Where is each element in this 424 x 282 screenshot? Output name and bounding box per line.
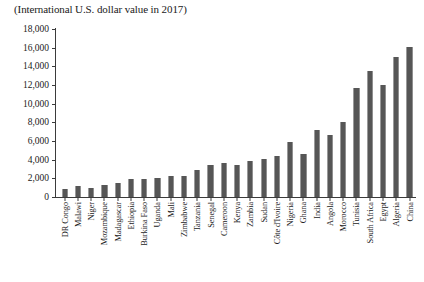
bar-slot	[164, 29, 177, 197]
bar-slot	[151, 29, 164, 197]
x-axis-tick-label: Niger	[87, 202, 96, 221]
x-axis-tick	[303, 197, 304, 201]
bar	[128, 179, 134, 197]
bar	[207, 165, 213, 197]
x-label-slot: Tunisia	[350, 202, 363, 280]
y-axis-tick	[52, 197, 56, 198]
bar-slot	[124, 29, 137, 197]
bar	[406, 47, 412, 197]
x-label-slot: Sudan	[257, 202, 270, 280]
bar	[75, 186, 81, 197]
bar	[62, 189, 68, 197]
x-axis-tick	[77, 197, 78, 201]
x-axis-tick-label: Egypt	[379, 202, 388, 222]
x-label-slot: Ethiopia	[124, 202, 137, 280]
y-axis-tick-label: 16,000	[23, 43, 49, 53]
bar	[101, 185, 107, 197]
bar-slot	[138, 29, 151, 197]
x-label-slot: Niger	[85, 202, 98, 280]
x-axis-tick	[356, 197, 357, 201]
x-label-slot: Senegal	[204, 202, 217, 280]
bar	[168, 176, 174, 197]
bar	[234, 165, 240, 197]
bar-slot	[270, 29, 283, 197]
x-axis-tick-label: Nigeria	[286, 202, 295, 226]
y-axis-tick-label: 4,000	[28, 155, 49, 165]
bar-slot	[111, 29, 124, 197]
x-axis-tick	[383, 197, 384, 201]
bar	[221, 163, 227, 197]
bar	[380, 85, 386, 197]
bar	[274, 156, 280, 197]
bar	[327, 135, 333, 197]
x-label-slot: Ghana	[297, 202, 310, 280]
x-axis-tick	[210, 197, 211, 201]
x-label-slot: India	[310, 202, 323, 280]
bar	[393, 57, 399, 197]
bar-slot	[230, 29, 243, 197]
bar-slot	[297, 29, 310, 197]
x-axis-tick	[316, 197, 317, 201]
x-axis-tick-label: India	[312, 202, 321, 219]
y-axis-tick-label: 10,000	[23, 99, 49, 109]
x-axis-tick-label: Burkina Faso	[140, 202, 149, 246]
bar-slot	[376, 29, 389, 197]
bar-slot	[204, 29, 217, 197]
bar	[340, 122, 346, 197]
y-axis-tick-label: 0	[44, 192, 49, 202]
bar	[154, 178, 160, 197]
x-axis-line	[55, 197, 416, 198]
bar	[115, 183, 121, 197]
bar-slot	[363, 29, 376, 197]
bar-slot	[323, 29, 336, 197]
x-axis-tick-label: Algeria	[392, 202, 401, 226]
chart-title: (International U.S. dollar value in 2017…	[14, 3, 187, 15]
bar	[194, 170, 200, 197]
x-axis-tick-label: Tunisia	[352, 202, 361, 226]
bar-slot	[217, 29, 230, 197]
x-axis-tick	[184, 197, 185, 201]
x-axis-tick-label: Kenya	[233, 202, 242, 223]
x-axis-tick	[276, 197, 277, 201]
x-axis-tick-label: DR Congo	[60, 202, 69, 237]
x-axis-tick	[290, 197, 291, 201]
x-label-slot: Kenya	[230, 202, 243, 280]
x-label-slot: Burkina Faso	[138, 202, 151, 280]
bar	[367, 71, 373, 197]
x-label-slot: Malawi	[71, 202, 84, 280]
x-axis-tick-label: Madagascar	[113, 202, 122, 241]
x-label-slot: Tanzania	[191, 202, 204, 280]
x-axis-tick-label: Ghana	[299, 202, 308, 223]
bar-slot	[284, 29, 297, 197]
x-label-slot: Mozambique	[98, 202, 111, 280]
x-axis-tick-label: Angola	[325, 202, 334, 226]
x-axis-tick	[263, 197, 264, 201]
x-label-slot: Cameroon	[217, 202, 230, 280]
bar-slot	[98, 29, 111, 197]
x-axis-tick	[250, 197, 251, 201]
x-axis-tick-label: Sudan	[259, 202, 268, 222]
bar	[181, 176, 187, 197]
x-axis-tick	[64, 197, 65, 201]
x-axis-tick-label: Ethiopia	[126, 202, 135, 230]
bar-slot	[71, 29, 84, 197]
bar-slot	[191, 29, 204, 197]
y-axis-tick-label: 12,000	[23, 80, 49, 90]
y-axis-tick-label: 2,000	[28, 173, 49, 183]
x-axis-tick	[170, 197, 171, 201]
x-axis-tick	[130, 197, 131, 201]
y-axis-tick-label: 8,000	[28, 117, 49, 127]
bar-slot	[350, 29, 363, 197]
bar-slot	[257, 29, 270, 197]
x-axis-tick-label: Zambia	[246, 202, 255, 227]
x-label-slot: China	[403, 202, 416, 280]
x-axis-tick	[237, 197, 238, 201]
x-axis-tick-label: Zimbabwe	[180, 202, 189, 237]
x-axis-tick	[157, 197, 158, 201]
x-axis-tick	[117, 197, 118, 201]
bar-slot	[58, 29, 71, 197]
x-label-slot: Angola	[323, 202, 336, 280]
x-axis-tick	[223, 197, 224, 201]
x-axis-tick	[104, 197, 105, 201]
x-axis-tick	[343, 197, 344, 201]
